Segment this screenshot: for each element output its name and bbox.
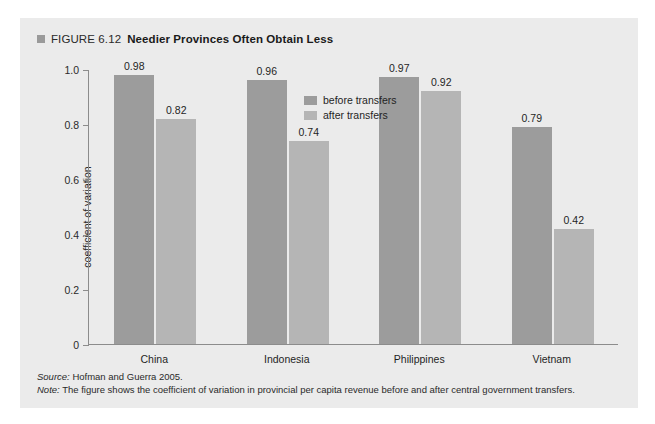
bar-value-label: 0.82 (166, 104, 186, 116)
bar-value-label: 0.74 (299, 126, 319, 138)
y-tick-label: 0 (73, 339, 79, 351)
y-tick: 0.4 (83, 235, 89, 236)
bar-china-after-transfers: 0.82 (156, 119, 196, 345)
x-axis-label-china: China (141, 353, 168, 365)
chart-plot-area: coefficient of variation 1.0 0.8 0.6 0.4… (88, 70, 618, 363)
x-axis-label-indonesia: Indonesia (264, 353, 310, 365)
y-tick: 0.8 (83, 125, 89, 126)
y-tick: 1.0 (83, 70, 89, 71)
y-tick: 0.6 (83, 180, 89, 181)
note-label: Note: (37, 384, 60, 395)
legend-label: before transfers (323, 94, 397, 106)
bar-value-label: 0.96 (257, 65, 277, 77)
legend-swatch-icon-after (304, 111, 317, 120)
bar-china-before-transfers: 0.98 (114, 75, 154, 345)
y-tick-label: 0.2 (64, 284, 79, 296)
figure-footer: Source: Hofman and Guerra 2005. Note: Th… (37, 370, 627, 396)
y-tick: 0 (83, 345, 89, 346)
source-text: Hofman and Guerra 2005. (70, 371, 183, 382)
y-tick-label: 0.4 (64, 229, 79, 241)
source-line: Source: Hofman and Guerra 2005. (37, 370, 627, 383)
x-axis-label-vietnam: Vietnam (533, 353, 571, 365)
note-text: The figure shows the coefficient of vari… (60, 384, 575, 395)
bar-value-label: 0.92 (431, 76, 451, 88)
page-title: Needier Provinces Often Obtain Less (127, 33, 333, 45)
chart-legend: before transfers after transfers (304, 94, 397, 124)
bar-philippines-after-transfers: 0.92 (421, 91, 461, 344)
bar-value-label: 0.42 (564, 214, 584, 226)
bar-value-label: 0.97 (389, 62, 409, 74)
legend-item-after-transfers: after transfers (304, 109, 397, 121)
legend-swatch-icon-before (304, 96, 317, 105)
square-marker-icon (37, 35, 45, 43)
figure-number: FIGURE 6.12 (51, 33, 121, 45)
bar-indonesia-after-transfers: 0.74 (289, 141, 329, 345)
y-tick-label: 1.0 (64, 64, 79, 76)
source-label: Source: (37, 371, 70, 382)
note-line: Note: The figure shows the coefficient o… (37, 383, 627, 396)
y-tick: 0.2 (83, 290, 89, 291)
bar-value-label: 0.98 (124, 60, 144, 72)
figure-title: FIGURE 6.12 Needier Provinces Often Obta… (37, 33, 333, 45)
figure-panel: FIGURE 6.12 Needier Provinces Often Obta… (20, 18, 638, 408)
bar-vietnam-after-transfers: 0.42 (554, 229, 594, 345)
bar-value-label: 0.79 (522, 112, 542, 124)
x-axis-label-philippines: Philippines (394, 353, 445, 365)
legend-item-before-transfers: before transfers (304, 94, 397, 106)
y-tick-label: 0.8 (64, 119, 79, 131)
chart-axes-box: 1.0 0.8 0.6 0.4 0.2 0 0.980.820.960.740.… (88, 70, 618, 345)
legend-label: after transfers (323, 109, 388, 121)
bar-indonesia-before-transfers: 0.96 (247, 80, 287, 344)
y-tick-label: 0.6 (64, 174, 79, 186)
bar-vietnam-before-transfers: 0.79 (512, 127, 552, 344)
